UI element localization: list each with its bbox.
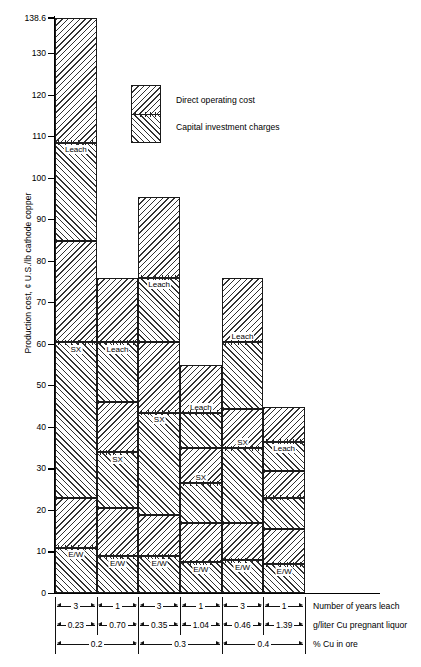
- table-cell-value: 0.3: [172, 639, 188, 649]
- table-column-rule: [55, 597, 56, 654]
- table-cell: 0.2: [55, 635, 138, 653]
- table-column-rule: [180, 597, 181, 635]
- bar-6[interactable]: E/WLeach: [263, 407, 305, 594]
- table-cell-value: 3: [71, 601, 80, 611]
- segment-label-Leach: Leach: [231, 332, 255, 341]
- segment-label-EW: E/W: [192, 565, 209, 574]
- bar-4-segment-leach-capital: [180, 413, 222, 448]
- table-column-rule: [222, 597, 223, 654]
- table-cell-value: 0.4: [255, 639, 271, 649]
- bar-6-segment-leach-capital: Leach: [263, 442, 305, 471]
- bar-4-segment-sx-capital: [180, 483, 222, 522]
- bar-1-segment-sx-operating: [55, 241, 97, 343]
- bar-2-segment-sx-capital: SX: [97, 452, 139, 508]
- bar-3[interactable]: E/WSXLeach: [138, 197, 180, 594]
- table-cell: 1.04: [180, 616, 222, 634]
- bar-2-segment-ew-capital: E/W: [97, 556, 139, 593]
- segment-label-Leach: Leach: [106, 345, 130, 354]
- segment-label-EW: E/W: [67, 550, 84, 559]
- legend-swatch-box: [131, 85, 161, 143]
- bar-5-segment-sx-operating: SX: [222, 409, 264, 448]
- segment-label-Leach: Leach: [147, 280, 171, 289]
- table-column-rule: [138, 597, 139, 654]
- bar-1-segment-ew-capital: E/W: [55, 548, 97, 594]
- bottom-data-table: 313131Number of years leach0.230.700.351…: [55, 597, 305, 659]
- table-cell-value: 0.23: [66, 620, 86, 630]
- segment-label-Leach: Leach: [272, 444, 296, 453]
- bar-4-segment-sx-operating: SX: [180, 448, 222, 483]
- segment-label-Leach: Leach: [189, 403, 213, 412]
- bar-5-segment-ew-capital: E/W: [222, 560, 264, 593]
- bar-3-segment-leach-operating: [138, 197, 180, 278]
- bar-1[interactable]: E/WSXLeach: [55, 18, 97, 594]
- table-cell: 0.3: [138, 635, 221, 653]
- bar-4-segment-ew-capital: E/W: [180, 562, 222, 593]
- segment-label-EW: E/W: [276, 567, 293, 576]
- table-cell: 0.46: [222, 616, 264, 634]
- table-cell: 0.35: [138, 616, 180, 634]
- table-cell: 1: [263, 597, 305, 615]
- table-cell: 1.39: [263, 616, 305, 634]
- table-row-label: % Cu in ore: [313, 635, 358, 653]
- bar-6-segment-ew-operating: [263, 529, 305, 564]
- segment-label-Leach: Leach: [64, 145, 88, 154]
- bar-1-segment-leach-capital: Leach: [55, 143, 97, 241]
- segment-label-SX: SX: [194, 473, 207, 482]
- bar-1-segment-sx-capital: SX: [55, 342, 97, 498]
- table-cell-value: 0.35: [149, 620, 169, 630]
- table-cell: 0.4: [222, 635, 305, 653]
- table-row: 0.20.30.4% Cu in ore: [55, 635, 305, 653]
- table-cell: 3: [138, 597, 180, 615]
- bar-6-segment-ew-capital: E/W: [263, 564, 305, 593]
- table-cell: 1: [180, 597, 222, 615]
- segment-label-SX: SX: [153, 415, 166, 424]
- table-cell: 0.70: [97, 616, 139, 634]
- legend-swatch-direct-operating-cost: [132, 86, 160, 114]
- bar-2-segment-ew-operating: [97, 508, 139, 556]
- table-cell-value: 1: [196, 601, 205, 611]
- bar-3-segment-sx-capital: SX: [138, 413, 180, 515]
- bar-4-segment-ew-operating: [180, 523, 222, 562]
- bar-5-segment-sx-capital: [222, 448, 264, 523]
- table-column-rule: [97, 597, 98, 635]
- bar-3-segment-sx-operating: [138, 342, 180, 413]
- bar-1-segment-leach-operating: [55, 18, 97, 143]
- bar-2[interactable]: E/WSXLeach: [97, 278, 139, 594]
- table-cell: 0.23: [55, 616, 97, 634]
- table-cell-value: 0.2: [89, 639, 105, 649]
- bar-3-segment-ew-capital: E/W: [138, 556, 180, 593]
- table-cell-value: 0.70: [107, 620, 127, 630]
- bar-2-segment-leach-capital: Leach: [97, 342, 139, 402]
- bar-6-segment-sx-operating: [263, 471, 305, 498]
- bar-4[interactable]: E/WSXLeach: [180, 365, 222, 593]
- bar-3-segment-ew-operating: [138, 515, 180, 557]
- segment-label-SX: SX: [69, 345, 82, 354]
- table-row-label: Number of years leach: [313, 597, 399, 615]
- segment-label-EW: E/W: [109, 559, 126, 568]
- legend-label-capital-investment-charges: Capital investment charges: [176, 122, 280, 132]
- bar-4-segment-leach-operating: Leach: [180, 365, 222, 413]
- segment-label-SX: SX: [111, 455, 124, 464]
- bar-2-segment-sx-operating: [97, 402, 139, 452]
- bar-5-segment-leach-operating: Leach: [222, 278, 264, 342]
- bar-3-segment-leach-capital: Leach: [138, 278, 180, 342]
- legend-label-direct-operating-cost: Direct operating cost: [176, 95, 255, 105]
- bar-6-segment-leach-operating: [263, 407, 305, 442]
- table-cell-value: 3: [155, 601, 164, 611]
- segment-label-SX: SX: [236, 438, 249, 447]
- bar-1-segment-ew-operating: [55, 498, 97, 548]
- bar-2-segment-leach-operating: [97, 278, 139, 342]
- chart-canvas: Production cost, ¢ U.S./lb cathode coppe…: [0, 0, 421, 667]
- bar-5[interactable]: E/WSXLeach: [222, 278, 264, 594]
- table-row-label: g/liter Cu pregnant liquor: [313, 616, 407, 634]
- table-cell-value: 1: [280, 601, 289, 611]
- segment-label-EW: E/W: [151, 559, 168, 568]
- table-cell: 3: [222, 597, 264, 615]
- table-cell-value: 1.39: [274, 620, 294, 630]
- table-column-rule: [305, 597, 306, 654]
- table-cell: 3: [55, 597, 97, 615]
- table-column-rule: [263, 597, 264, 635]
- table-cell-value: 0.46: [232, 620, 252, 630]
- table-cell: 1: [97, 597, 139, 615]
- segment-label-EW: E/W: [234, 563, 251, 572]
